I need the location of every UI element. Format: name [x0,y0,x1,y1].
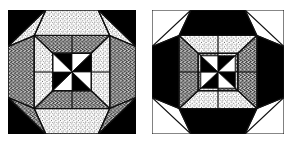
left-quilt-artwork [8,10,136,134]
figure-pair [0,0,290,143]
left-quilt-block [8,10,136,134]
center-star [53,53,91,90]
right-quilt-block [152,10,284,134]
center-star [201,56,235,88]
right-quilt-artwork [152,10,284,134]
